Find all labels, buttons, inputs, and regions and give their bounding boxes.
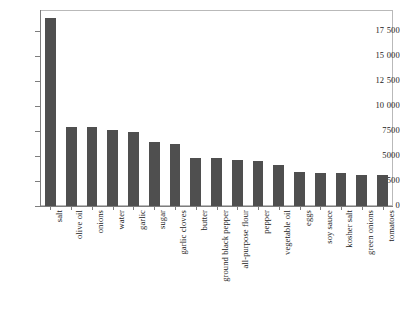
x-tick-label: all-purpose flour xyxy=(240,210,250,269)
x-tick-label-wrap: vegetable oil xyxy=(282,210,292,255)
bar-chart: 025005000750010 00012 50015 00017 500 sa… xyxy=(0,0,400,310)
x-tick-label-wrap: garlic cloves xyxy=(178,210,188,255)
x-tick-label-wrap: ground black pepper xyxy=(220,210,230,282)
x-tick-label: green onions xyxy=(365,210,375,255)
x-tick-label: butter xyxy=(199,210,209,230)
bar[interactable] xyxy=(253,161,264,206)
x-tick-label: ground black pepper xyxy=(220,210,230,282)
bar[interactable] xyxy=(66,127,77,206)
x-tick-label-wrap: butter xyxy=(199,210,209,230)
bar[interactable] xyxy=(294,172,305,207)
bar[interactable] xyxy=(107,130,118,206)
x-tick-label: salt xyxy=(54,210,64,222)
y-tick-mark xyxy=(35,206,40,207)
x-tick-label: sugar xyxy=(157,210,167,229)
bar[interactable] xyxy=(190,158,201,206)
bars-series xyxy=(40,10,393,206)
bar[interactable] xyxy=(315,173,326,206)
x-tick-label: eggs xyxy=(303,210,313,226)
x-tick-label-wrap: pepper xyxy=(261,210,271,234)
x-tick-label-wrap: eggs xyxy=(303,210,313,226)
x-tick-label: soy sauce xyxy=(324,210,334,244)
x-tick-label: onions xyxy=(95,210,105,233)
bar[interactable] xyxy=(232,160,243,206)
x-tick-label: garlic xyxy=(137,210,147,230)
bar[interactable] xyxy=(149,142,160,206)
bar[interactable] xyxy=(211,158,222,206)
x-tick-label: vegetable oil xyxy=(282,210,292,255)
bar[interactable] xyxy=(87,127,98,207)
x-tick-label: pepper xyxy=(261,210,271,234)
bar[interactable] xyxy=(170,144,181,206)
x-tick-label-wrap: tomatoes xyxy=(386,210,396,242)
x-tick-label: water xyxy=(116,210,126,229)
bar[interactable] xyxy=(45,18,56,206)
x-axis-labels: saltolive oilonionswatergarlicsugargarli… xyxy=(40,210,393,310)
x-tick-label: garlic cloves xyxy=(178,210,188,255)
x-tick-label-wrap: olive oil xyxy=(74,210,84,239)
x-tick-label-wrap: all-purpose flour xyxy=(240,210,250,269)
bar[interactable] xyxy=(377,175,388,206)
x-tick-label-wrap: water xyxy=(116,210,126,229)
bar[interactable] xyxy=(336,173,347,206)
x-tick-label-wrap: kosher salt xyxy=(344,210,354,248)
bar[interactable] xyxy=(356,175,367,207)
x-tick-label-wrap: sugar xyxy=(157,210,167,229)
x-tick-label-wrap: garlic xyxy=(137,210,147,230)
x-tick-label: kosher salt xyxy=(344,210,354,248)
x-tick-label-wrap: salt xyxy=(54,210,64,222)
x-tick-label: tomatoes xyxy=(386,210,396,242)
bar[interactable] xyxy=(273,165,284,206)
bar[interactable] xyxy=(128,132,139,206)
x-tick-label-wrap: green onions xyxy=(365,210,375,255)
x-tick-label-wrap: soy sauce xyxy=(324,210,334,244)
x-tick-label-wrap: onions xyxy=(95,210,105,233)
x-tick-label: olive oil xyxy=(74,210,84,239)
